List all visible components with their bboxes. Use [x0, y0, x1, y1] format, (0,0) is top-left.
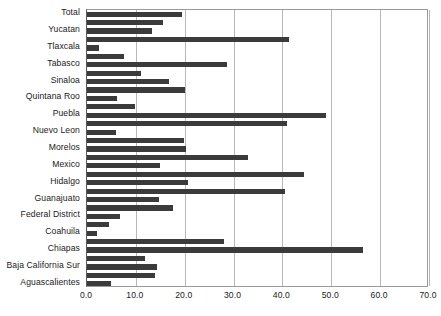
bar: [87, 222, 109, 227]
bar-fill: [87, 264, 157, 269]
bar: [87, 256, 145, 261]
bar-fill: [87, 20, 163, 25]
bar: [87, 281, 111, 286]
bar-fill: [87, 45, 99, 50]
bar: [87, 121, 287, 126]
bar-fill: [87, 256, 145, 261]
y-axis-tick-label: Quintana Roo: [26, 92, 80, 101]
bar: [87, 138, 184, 143]
bars-layer: [87, 10, 427, 286]
bar: [87, 45, 99, 50]
bar: [87, 12, 182, 17]
bar: [87, 231, 97, 236]
bar-fill: [87, 79, 169, 84]
bar-fill: [87, 281, 111, 286]
x-axis-tick-label: 40.0: [273, 290, 290, 300]
bar-fill: [87, 12, 182, 17]
bar-fill: [87, 222, 109, 227]
bar-fill: [87, 247, 363, 252]
y-axis-labels: TotalYucatanTlaxcalaTabascoSinaloaQuinta…: [0, 9, 84, 287]
bar-fill: [87, 28, 152, 33]
bar-fill: [87, 163, 160, 168]
bar: [87, 104, 135, 109]
y-axis-tick-label: Hidalgo: [50, 177, 80, 186]
bar-fill: [87, 54, 124, 59]
bar-fill: [87, 121, 287, 126]
y-axis-tick-label: Total: [61, 8, 80, 17]
bar: [87, 113, 326, 118]
y-axis-tick-label: Morelos: [49, 143, 80, 152]
bar: [87, 214, 120, 219]
x-axis-tick-label: 20.0: [175, 290, 192, 300]
bar-fill: [87, 87, 185, 92]
y-axis-tick-label: Tabasco: [47, 59, 80, 68]
bar-chart: TotalYucatanTlaxcalaTabascoSinaloaQuinta…: [0, 0, 441, 316]
y-axis-tick-label: Tlaxcala: [47, 42, 80, 51]
bar-fill: [87, 62, 227, 67]
bar: [87, 79, 169, 84]
bar-fill: [87, 113, 326, 118]
bar: [87, 62, 227, 67]
bar: [87, 239, 224, 244]
y-axis-tick-label: Aguascalientes: [20, 278, 80, 287]
y-axis-tick-label: Nuevo Leon: [33, 126, 80, 135]
bar-fill: [87, 37, 289, 42]
bar: [87, 130, 116, 135]
bar-fill: [87, 239, 224, 244]
bar-fill: [87, 96, 117, 101]
bar: [87, 146, 186, 151]
bar: [87, 273, 155, 278]
bar-fill: [87, 205, 173, 210]
bar: [87, 189, 285, 194]
bar-fill: [87, 214, 120, 219]
y-axis-tick-label: Guanajuato: [35, 194, 80, 203]
bar-fill: [87, 197, 159, 202]
bar: [87, 180, 188, 185]
plot-area: [86, 9, 428, 287]
gridline: [429, 10, 430, 286]
bar-fill: [87, 189, 285, 194]
y-axis-tick-label: Baja California Sur: [6, 261, 80, 270]
x-axis-tick-label: 0.0: [80, 290, 92, 300]
bar: [87, 197, 159, 202]
bar: [87, 54, 124, 59]
y-axis-tick-label: Coahuila: [45, 227, 80, 236]
x-axis-labels: 0.010.020.030.040.050.060.070.0: [86, 290, 428, 310]
x-axis-tick-label: 60.0: [371, 290, 388, 300]
bar: [87, 28, 152, 33]
y-axis-tick-label: Puebla: [53, 109, 80, 118]
bar: [87, 155, 248, 160]
x-axis-tick-label: 70.0: [419, 290, 436, 300]
bar-fill: [87, 273, 155, 278]
y-axis-tick-label: Sinaloa: [51, 76, 80, 85]
bar-fill: [87, 146, 186, 151]
bar: [87, 37, 289, 42]
y-axis-tick-label: Mexico: [52, 160, 80, 169]
bar-fill: [87, 138, 184, 143]
x-axis-tick-label: 50.0: [322, 290, 339, 300]
bar-fill: [87, 231, 97, 236]
bar: [87, 87, 185, 92]
bar: [87, 20, 163, 25]
x-axis-tick-label: 10.0: [126, 290, 143, 300]
bar-fill: [87, 180, 188, 185]
bar-fill: [87, 71, 141, 76]
x-axis-tick-label: 30.0: [224, 290, 241, 300]
y-axis-tick-label: Yucatan: [48, 25, 80, 34]
bar-fill: [87, 172, 304, 177]
bar: [87, 163, 160, 168]
bar: [87, 205, 173, 210]
bar: [87, 71, 141, 76]
bar: [87, 264, 157, 269]
bar-fill: [87, 104, 135, 109]
bar: [87, 96, 117, 101]
bar: [87, 247, 363, 252]
bar: [87, 172, 304, 177]
bar-fill: [87, 155, 248, 160]
bar-fill: [87, 130, 116, 135]
y-axis-tick-label: Federal District: [21, 210, 80, 219]
y-axis-tick-label: Chiapas: [48, 244, 80, 253]
